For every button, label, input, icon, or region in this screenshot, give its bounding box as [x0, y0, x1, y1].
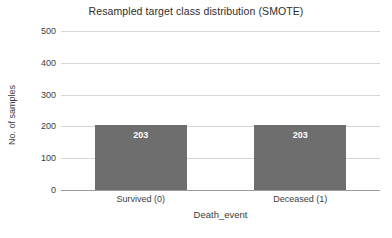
bar[interactable]: 203 [95, 125, 187, 190]
y-axis-tick-label: 500 [14, 26, 56, 36]
x-axis-tick-label: Survived (0) [116, 194, 165, 204]
gridline [61, 31, 380, 32]
bar-value-label: 203 [95, 130, 187, 140]
plot-area: 203203 [61, 31, 380, 190]
y-axis-tick-label: 200 [14, 121, 56, 131]
y-axis-tick-label: 100 [14, 153, 56, 163]
x-axis-line [61, 190, 380, 191]
y-axis-tick-label: 0 [14, 185, 56, 195]
bar-value-label: 203 [254, 130, 346, 140]
y-axis-tick-label: 300 [14, 90, 56, 100]
x-axis-tick-label: Deceased (1) [273, 194, 327, 204]
x-axis-title: Death_event [61, 209, 380, 220]
bar[interactable]: 203 [254, 125, 346, 190]
y-axis-tick-label: 400 [14, 58, 56, 68]
gridline [61, 95, 380, 96]
gridline [61, 63, 380, 64]
chart-container: Resampled target class distribution (SMO… [0, 0, 392, 238]
chart-title: Resampled target class distribution (SMO… [0, 5, 392, 17]
